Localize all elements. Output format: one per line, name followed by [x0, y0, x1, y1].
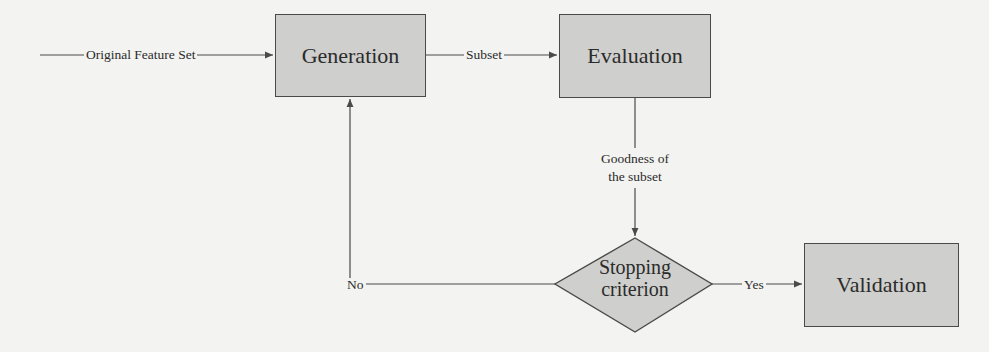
- goodness-line2: the subset: [590, 168, 680, 186]
- validation-label: Validation: [836, 272, 926, 298]
- stopping-label-line2: criterion: [575, 278, 695, 300]
- edge-label-subset: Subset: [464, 48, 504, 62]
- generation-label: Generation: [302, 43, 400, 69]
- stopping-criterion-label: Stopping criterion: [575, 256, 695, 300]
- edge-label-yes: Yes: [742, 278, 766, 292]
- goodness-line1: Goodness of: [590, 150, 680, 168]
- evaluation-node: Evaluation: [559, 14, 711, 98]
- validation-node: Validation: [804, 243, 959, 327]
- edge-stopping-to-generation: [350, 99, 555, 284]
- generation-node: Generation: [275, 14, 426, 97]
- edge-label-original-feature-set: Original Feature Set: [84, 48, 197, 62]
- edge-label-no: No: [347, 278, 366, 292]
- flowchart-canvas: Generation Evaluation Validation Stoppin…: [0, 0, 989, 352]
- edge-label-goodness: Goodness of the subset: [590, 148, 680, 188]
- stopping-label-line1: Stopping: [575, 256, 695, 278]
- evaluation-label: Evaluation: [587, 43, 682, 69]
